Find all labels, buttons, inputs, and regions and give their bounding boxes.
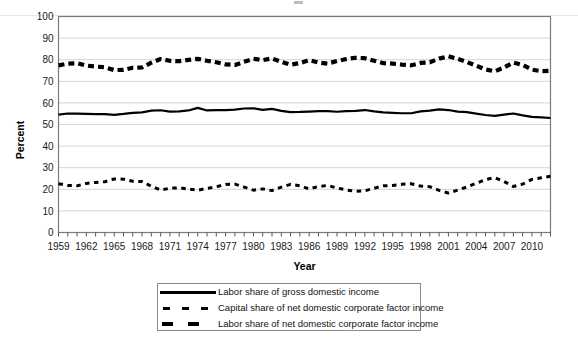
x-axis-tick-marks <box>59 233 551 237</box>
legend-item-labor-share-gross: Labor share of gross domestic income <box>158 284 420 300</box>
svg-text:1995: 1995 <box>382 241 405 252</box>
x-axis-tick-labels: 1959196219651968197119741977198019831986… <box>47 241 543 252</box>
svg-text:20: 20 <box>42 184 54 195</box>
svg-text:1986: 1986 <box>298 241 321 252</box>
svg-text:1983: 1983 <box>270 241 293 252</box>
svg-text:2010: 2010 <box>521 241 544 252</box>
svg-text:70: 70 <box>42 76 54 87</box>
svg-text:2004: 2004 <box>465 241 488 252</box>
svg-text:1974: 1974 <box>187 241 210 252</box>
svg-text:50: 50 <box>42 119 54 130</box>
svg-text:0: 0 <box>48 227 54 238</box>
chart-figure: 0102030405060708090100 19591962196519681… <box>0 0 578 338</box>
svg-text:60: 60 <box>42 98 54 109</box>
svg-text:100: 100 <box>37 11 54 22</box>
solid-line-key <box>158 284 218 300</box>
svg-text:2007: 2007 <box>493 241 516 252</box>
svg-text:40: 40 <box>42 141 54 152</box>
series-line-1 <box>59 176 551 193</box>
svg-text:1998: 1998 <box>409 241 432 252</box>
svg-text:1968: 1968 <box>131 241 154 252</box>
svg-text:80: 80 <box>42 54 54 65</box>
svg-text:30: 30 <box>42 162 54 173</box>
x-axis-title: Year <box>293 260 315 272</box>
svg-text:2001: 2001 <box>437 241 460 252</box>
svg-text:1971: 1971 <box>159 241 182 252</box>
svg-text:1992: 1992 <box>354 241 377 252</box>
y-axis-title: Percent <box>14 120 26 159</box>
legend-label-2: Labor share of net domestic corporate fa… <box>218 316 438 332</box>
dotted-line-key <box>158 300 218 316</box>
legend-label-0: Labor share of gross domestic income <box>218 284 379 300</box>
chart-legend: Labor share of gross domestic income Cap… <box>157 283 421 331</box>
legend-item-labor-share-net: Labor share of net domestic corporate fa… <box>158 316 420 332</box>
series-line-2 <box>59 56 551 71</box>
svg-text:10: 10 <box>42 206 54 217</box>
series-line-0 <box>59 108 551 118</box>
y-axis-tick-labels: 0102030405060708090100 <box>37 11 54 238</box>
legend-item-capital-share-net: Capital share of net domestic corporate … <box>158 300 420 316</box>
legend-label-1: Capital share of net domestic corporate … <box>218 300 443 316</box>
svg-text:1959: 1959 <box>47 241 70 252</box>
svg-text:90: 90 <box>42 33 54 44</box>
svg-text:1980: 1980 <box>242 241 265 252</box>
svg-text:1965: 1965 <box>103 241 126 252</box>
dashed-line-key <box>158 316 218 332</box>
svg-text:1989: 1989 <box>326 241 349 252</box>
svg-text:1962: 1962 <box>75 241 98 252</box>
svg-text:1977: 1977 <box>214 241 237 252</box>
